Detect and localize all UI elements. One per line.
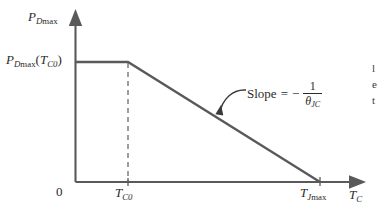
x-axis-sub: C [356,194,362,204]
y-tick-arg-sub: C0 [47,59,57,69]
slope-minus-sign: − [292,87,300,100]
y-tick-close-paren: ) [57,52,61,67]
slope-fraction: 1 θJC [303,80,322,107]
y-tick-symbol: P [6,52,14,67]
slope-denominator: θJC [303,94,322,107]
slope-equals: = [280,87,289,100]
y-axis-title: PDmax [28,10,58,23]
x-tick-tc0-sub: C0 [122,192,132,202]
x-tick-tjmax-sub-roman: max [311,192,326,202]
slope-leader-line [220,90,247,114]
caption-fragment-line-1: l [372,60,384,76]
y-axis-sub-roman: max [42,16,57,26]
theta-subscript: JC [311,100,320,109]
x-tick-label-tjmax: TJmax [300,186,326,199]
clipped-caption-fragments: l e t [372,60,384,108]
x-tick-label-tc0: TC0 [115,186,133,199]
power-derating-figure: PDmax PDmax(TC0) 0 TC0 TJmax TC Slope = … [0,0,384,222]
slope-numerator: 1 [307,80,319,93]
origin-label: 0 [56,185,63,198]
slope-annotation: Slope = − 1 θJC [247,80,322,107]
caption-fragment-line-3: t [372,92,384,108]
y-axis-symbol: P [28,9,36,24]
y-tick-sub-roman: max [20,59,35,69]
y-tick-label-pdmax-tc0: PDmax(TC0) [6,53,62,66]
x-axis-title: TC [349,188,362,201]
slope-word: Slope [247,87,277,100]
caption-fragment-line-2: e [372,76,384,92]
